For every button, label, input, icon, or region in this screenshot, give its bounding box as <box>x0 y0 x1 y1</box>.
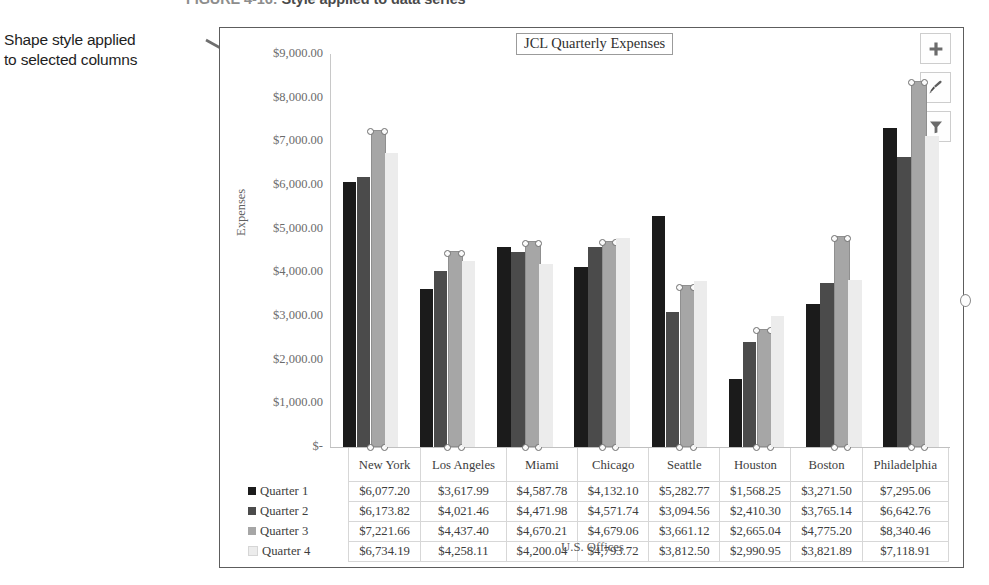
table-column-header: Philadelphia <box>862 448 948 482</box>
legend-label: Quarter 1 <box>260 484 308 498</box>
y-axis-tick-label: $5,000.00 <box>273 221 323 236</box>
y-axis-tick-label: $2,000.00 <box>273 352 323 367</box>
y-axis-tick-label: $7,000.00 <box>273 133 323 148</box>
table-cell-value: $3,661.12 <box>649 522 720 542</box>
table-column-header: Seattle <box>649 448 720 482</box>
bar-quarter-4[interactable] <box>848 280 862 447</box>
bar-quarter-1[interactable] <box>729 379 743 447</box>
legend-swatch-icon <box>248 507 256 515</box>
table-cell-value: $6,173.82 <box>349 502 421 522</box>
bar-group[interactable] <box>795 54 872 447</box>
series-selection-handle[interactable] <box>844 235 851 242</box>
table-cell-value: $7,221.66 <box>349 522 421 542</box>
x-axis-title[interactable]: U.S. Offices <box>220 540 965 555</box>
bar-quarter-2[interactable] <box>897 157 911 447</box>
table-cell-value: $4,670.21 <box>506 522 577 542</box>
series-selection-handle[interactable] <box>676 284 683 291</box>
bar-group[interactable] <box>872 54 949 447</box>
bar-quarter-2[interactable] <box>588 247 602 447</box>
bar-quarter-2[interactable] <box>511 252 525 447</box>
right-middle-resize-handle[interactable] <box>960 294 971 307</box>
bar-quarter-2[interactable] <box>434 271 448 447</box>
y-axis-tick-label: $8,000.00 <box>273 90 323 105</box>
series-selection-handle[interactable] <box>921 79 928 86</box>
chart-title[interactable]: JCL Quarterly Expenses <box>516 33 673 55</box>
legend-entry[interactable]: Quarter 3 <box>234 522 349 542</box>
table-column-header: Los Angeles <box>421 448 507 482</box>
legend-label: Quarter 2 <box>260 504 308 518</box>
bar-quarter-1[interactable] <box>497 247 511 447</box>
table-cell-value: $6,642.76 <box>862 502 948 522</box>
annotation-line-1: Shape style applied <box>4 30 209 50</box>
bar-group[interactable] <box>486 54 563 447</box>
figure-caption: FIGURE 4-16: Style applied to data serie… <box>186 0 466 7</box>
y-axis-tick-label: $3,000.00 <box>273 308 323 323</box>
bar-quarter-4[interactable] <box>616 238 630 447</box>
bar-quarter-1[interactable] <box>420 289 434 447</box>
plot-area[interactable] <box>331 54 949 447</box>
annotation-callout: Shape style applied to selected columns <box>4 30 209 70</box>
table-cell-value: $2,410.30 <box>720 502 791 522</box>
legend-entry[interactable]: Quarter 2 <box>234 502 349 522</box>
table-cell-value: $8,340.46 <box>862 522 948 542</box>
table-column-header: Houston <box>720 448 791 482</box>
bar-quarter-2[interactable] <box>743 342 757 447</box>
table-cell-value: $4,471.98 <box>506 502 577 522</box>
bar-quarter-2[interactable] <box>666 312 680 447</box>
table-column-header: Miami <box>506 448 577 482</box>
table-cell-value: $5,282.77 <box>649 482 720 502</box>
table-row: Quarter 2$6,173.82$4,021.46$4,471.98$4,5… <box>234 502 949 522</box>
series-selection-handle[interactable] <box>599 239 606 246</box>
series-selection-handle[interactable] <box>535 240 542 247</box>
table-cell-value: $4,437.40 <box>421 522 507 542</box>
figure-caption-text: Style applied to data series <box>281 0 465 7</box>
bar-quarter-2[interactable] <box>357 177 371 447</box>
bar-quarter-4[interactable] <box>385 153 399 447</box>
table-cell-value: $1,568.25 <box>720 482 791 502</box>
figure-number: FIGURE 4-16: <box>186 0 277 7</box>
series-selection-handle[interactable] <box>522 240 529 247</box>
bar-quarter-1[interactable] <box>652 216 666 447</box>
bar-quarter-2[interactable] <box>820 283 834 447</box>
legend-label: Quarter 3 <box>260 524 308 538</box>
y-axis-tick-label: $1,000.00 <box>273 395 323 410</box>
bar-quarter-4[interactable] <box>925 136 939 447</box>
table-cell-value: $3,094.56 <box>649 502 720 522</box>
table-corner-cell <box>234 448 349 482</box>
table-cell-value: $3,271.50 <box>791 482 862 502</box>
table-row: Quarter 3$7,221.66$4,437.40$4,670.21$4,6… <box>234 522 949 542</box>
y-axis-tick-label: $6,000.00 <box>273 177 323 192</box>
bar-quarter-1[interactable] <box>883 128 897 447</box>
bar-group[interactable] <box>640 54 717 447</box>
bar-quarter-4[interactable] <box>771 316 785 447</box>
chart-object-frame[interactable]: JCL Quarterly Expenses Expenses $9,000.0… <box>219 27 964 568</box>
series-selection-handle[interactable] <box>381 128 388 135</box>
y-axis-tick-label: $4,000.00 <box>273 264 323 279</box>
table-cell-value: $7,295.06 <box>862 482 948 502</box>
table-cell-value: $4,587.78 <box>506 482 577 502</box>
bar-group[interactable] <box>717 54 794 447</box>
legend-entry[interactable]: Quarter 1 <box>234 482 349 502</box>
table-cell-value: $4,132.10 <box>578 482 649 502</box>
table-cell-value: $4,775.20 <box>791 522 862 542</box>
series-selection-handle[interactable] <box>458 250 465 257</box>
table-cell-value: $6,077.20 <box>349 482 421 502</box>
table-column-header: New York <box>349 448 421 482</box>
bar-quarter-1[interactable] <box>343 182 357 447</box>
table-row: Quarter 1$6,077.20$3,617.99$4,587.78$4,1… <box>234 482 949 502</box>
annotation-line-2: to selected columns <box>4 50 209 70</box>
legend-swatch-icon <box>248 487 256 495</box>
bar-group[interactable] <box>563 54 640 447</box>
table-cell-value: $2,665.04 <box>720 522 791 542</box>
bar-quarter-4[interactable] <box>539 264 553 447</box>
table-cell-value: $4,571.74 <box>578 502 649 522</box>
bar-quarter-1[interactable] <box>574 267 588 447</box>
table-column-header: Boston <box>791 448 862 482</box>
table-column-header: Chicago <box>578 448 649 482</box>
bar-quarter-4[interactable] <box>694 281 708 447</box>
series-selection-handle[interactable] <box>831 235 838 242</box>
bar-quarter-4[interactable] <box>462 261 476 447</box>
bar-group[interactable] <box>408 54 485 447</box>
bar-quarter-1[interactable] <box>806 304 820 447</box>
bar-group[interactable] <box>331 54 408 447</box>
